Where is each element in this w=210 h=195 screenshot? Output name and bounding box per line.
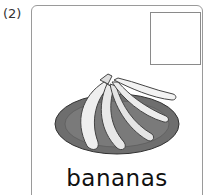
- answer-box[interactable]: [150, 12, 201, 65]
- word-label: bananas: [31, 165, 203, 191]
- bananas-illustration: [52, 66, 187, 161]
- item-number: (2): [3, 6, 21, 21]
